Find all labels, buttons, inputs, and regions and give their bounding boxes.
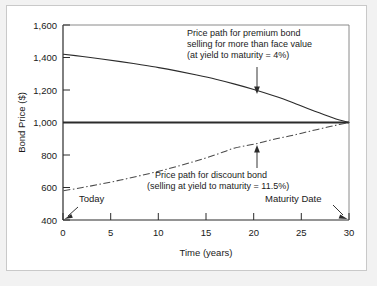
x-axis-title: Time (years) <box>180 247 233 258</box>
y-tick-label-1600: 1,600 <box>33 20 57 31</box>
discount-annotation-line-2: (selling at yield to maturity = 11.5%) <box>147 181 289 191</box>
figure-root: 1,600 1,400 1,200 1,000 800 600 400 0 5 … <box>0 0 377 286</box>
y-tick-label-1000: 1,000 <box>33 117 57 128</box>
x-tick-label-30: 30 <box>344 227 355 238</box>
x-tick-label-15: 15 <box>201 227 212 238</box>
premium-annotation-line-2: selling for more than face value <box>187 39 312 49</box>
x-tick-label-10: 10 <box>153 227 164 238</box>
premium-annotation-line-1: Price path for premium bond <box>187 28 301 38</box>
maturity-date-marker-label: Maturity Date <box>265 193 322 204</box>
bond-price-path-chart: 1,600 1,400 1,200 1,000 800 600 400 0 5 … <box>7 6 366 270</box>
figure-frame: 1,600 1,400 1,200 1,000 800 600 400 0 5 … <box>6 5 367 271</box>
x-tick-label-0: 0 <box>60 227 65 238</box>
x-tick-label-5: 5 <box>108 227 113 238</box>
x-tick-label-25: 25 <box>296 227 307 238</box>
y-tick-label-600: 600 <box>41 182 57 193</box>
today-marker-label: Today <box>79 193 105 204</box>
y-tick-label-1400: 1,400 <box>33 52 57 63</box>
y-tick-label-800: 800 <box>41 150 57 161</box>
y-tick-label-400: 400 <box>41 215 57 226</box>
x-tick-label-20: 20 <box>248 227 259 238</box>
y-tick-label-1200: 1,200 <box>33 85 57 96</box>
y-axis-title: Bond Price ($) <box>16 92 27 153</box>
premium-annotation-line-3: (at yield to maturity = 4%) <box>187 50 289 60</box>
discount-annotation-line-1: Price path for discount bond <box>155 170 267 180</box>
